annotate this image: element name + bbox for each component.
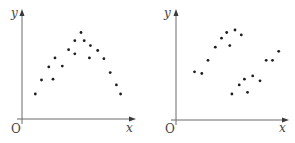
x-axis-label: x xyxy=(279,121,286,135)
data-point xyxy=(265,59,268,62)
data-point xyxy=(251,75,254,78)
data-point xyxy=(225,31,228,34)
data-point xyxy=(238,84,241,87)
data-point xyxy=(243,78,246,81)
data-point xyxy=(80,31,83,34)
data-point xyxy=(115,84,118,87)
data-point xyxy=(231,93,234,96)
data-point xyxy=(200,72,203,75)
data-point xyxy=(277,50,280,53)
data-point xyxy=(83,39,86,42)
scatter-plot-right: y x O xyxy=(163,6,289,136)
origin-label: O xyxy=(165,122,175,136)
data-point xyxy=(119,93,122,96)
data-point xyxy=(96,49,99,52)
data-point xyxy=(40,79,43,82)
data-point xyxy=(246,91,249,94)
x-axis-label: x xyxy=(126,121,133,135)
data-point xyxy=(271,59,274,62)
data-point xyxy=(207,59,210,62)
data-point xyxy=(89,44,92,47)
data-point xyxy=(52,78,55,81)
data-point xyxy=(103,57,106,60)
data-point xyxy=(109,71,112,74)
scatter-plots-figure: y x O y x O xyxy=(0,0,295,143)
y-axis-label: y xyxy=(163,6,171,20)
data-point xyxy=(220,37,223,40)
data-point xyxy=(73,39,76,42)
data-point xyxy=(240,34,243,37)
data-point xyxy=(47,66,50,69)
data-point xyxy=(193,70,196,73)
data-point xyxy=(234,29,237,32)
data-points xyxy=(34,31,122,95)
data-point xyxy=(54,57,57,60)
data-point xyxy=(214,46,217,49)
origin-label: O xyxy=(11,122,21,136)
data-point xyxy=(73,52,76,55)
data-point xyxy=(67,48,70,51)
data-point xyxy=(34,93,37,96)
scatter-plot-left: y x O xyxy=(10,6,136,136)
data-point xyxy=(88,57,91,60)
data-point xyxy=(228,44,231,47)
data-points xyxy=(193,29,280,96)
y-axis-label: y xyxy=(10,6,18,20)
data-point xyxy=(259,79,262,82)
data-point xyxy=(61,65,64,68)
y-axis-arrow-icon xyxy=(20,9,25,16)
y-axis-arrow-icon xyxy=(174,9,179,16)
